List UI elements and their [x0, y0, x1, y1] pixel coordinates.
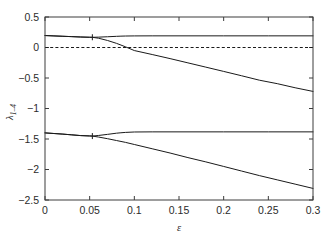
- figure-container: 0.50−0.5−1−1.5−2−2.5 00.050.10.150.20.25…: [0, 0, 332, 239]
- eigenvalue-bifurcation-chart: 0.50−0.5−1−1.5−2−2.5 00.050.10.150.20.25…: [0, 0, 332, 239]
- y-axis-title: λ1–4: [4, 104, 18, 121]
- x-tick-label: 0: [42, 204, 48, 216]
- y-tick-label: 0: [33, 41, 39, 53]
- x-tick-label: 0.25: [258, 204, 279, 216]
- y-tick-label: −0.5: [18, 72, 39, 84]
- y-tick-label: −2: [27, 163, 39, 175]
- x-tick-label: 0.1: [127, 204, 142, 216]
- svg-text:λ1–4: λ1–4: [4, 104, 18, 121]
- x-tick-label: 0.2: [216, 204, 231, 216]
- plot-background: [45, 17, 313, 200]
- x-axis-title: ε: [177, 222, 182, 233]
- x-tick-label: 0.3: [306, 204, 321, 216]
- x-tick-label: 0.15: [169, 204, 190, 216]
- y-tick-label: −1: [27, 102, 39, 114]
- y-tick-label: −1.5: [18, 133, 39, 145]
- y-axis-title-subscript: 1–4: [9, 104, 18, 116]
- y-tick-label: 0.5: [24, 11, 39, 23]
- x-tick-label: 0.05: [79, 204, 100, 216]
- y-tick-label: −2.5: [18, 194, 39, 206]
